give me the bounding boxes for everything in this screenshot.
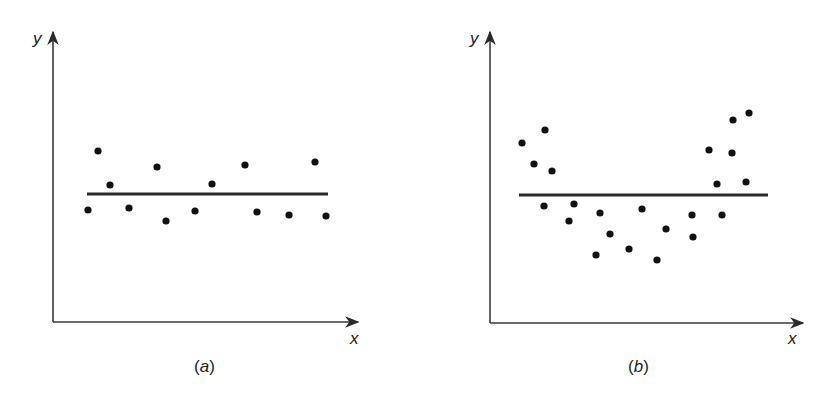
data-point xyxy=(689,233,696,240)
data-point xyxy=(191,207,198,214)
data-point xyxy=(653,256,660,263)
data-point xyxy=(322,212,329,219)
data-point xyxy=(153,163,160,170)
panel-a: y x (a) xyxy=(32,29,359,376)
data-point xyxy=(518,139,525,146)
data-point xyxy=(570,200,577,207)
panel-b: y x (b) xyxy=(469,29,803,376)
scatter-points-a xyxy=(84,147,329,224)
data-point xyxy=(565,217,572,224)
data-point xyxy=(208,180,215,187)
data-point xyxy=(106,181,113,188)
data-point xyxy=(742,178,749,185)
y-axis-label-b: y xyxy=(469,29,480,48)
data-point xyxy=(718,211,725,218)
data-point xyxy=(125,204,132,211)
residual-plots-figure: y x (a) y x (b) xyxy=(0,0,831,398)
data-point xyxy=(729,116,736,123)
data-point xyxy=(548,167,555,174)
data-point xyxy=(625,245,632,252)
data-point xyxy=(728,149,735,156)
data-point xyxy=(745,109,752,116)
scatter-points-b xyxy=(518,109,752,263)
data-point xyxy=(94,147,101,154)
data-point xyxy=(705,146,712,153)
x-axis-label-a: x xyxy=(349,329,359,348)
data-point xyxy=(638,205,645,212)
data-point xyxy=(713,180,720,187)
data-point xyxy=(606,230,613,237)
x-axis-label-b: x xyxy=(787,329,797,348)
data-point xyxy=(541,126,548,133)
panel-caption-b: (b) xyxy=(628,357,649,376)
data-point xyxy=(596,209,603,216)
data-point xyxy=(662,225,669,232)
data-point xyxy=(253,208,260,215)
data-point xyxy=(241,161,248,168)
data-point xyxy=(162,217,169,224)
data-point xyxy=(688,211,695,218)
data-point xyxy=(311,158,318,165)
data-point xyxy=(592,251,599,258)
data-point xyxy=(530,160,537,167)
y-axis-label-a: y xyxy=(32,29,43,48)
data-point xyxy=(540,202,547,209)
data-point xyxy=(84,206,91,213)
panel-caption-a: (a) xyxy=(194,357,215,376)
data-point xyxy=(285,211,292,218)
